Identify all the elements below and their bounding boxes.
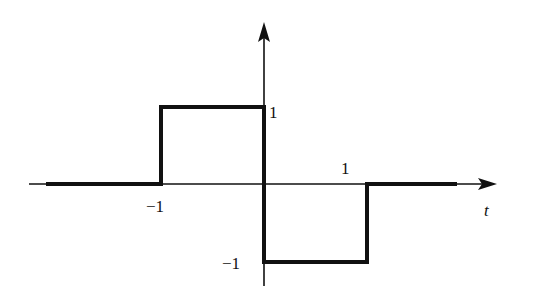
- label-y-pos-one: 1: [269, 103, 278, 122]
- signal-plot: 1 −1 1 t −1: [0, 0, 553, 303]
- label-x-pos-one: 1: [341, 159, 350, 178]
- label-x-neg-one: −1: [146, 197, 164, 216]
- label-t-axis: t: [484, 201, 490, 220]
- label-y-neg-one: −1: [222, 254, 240, 273]
